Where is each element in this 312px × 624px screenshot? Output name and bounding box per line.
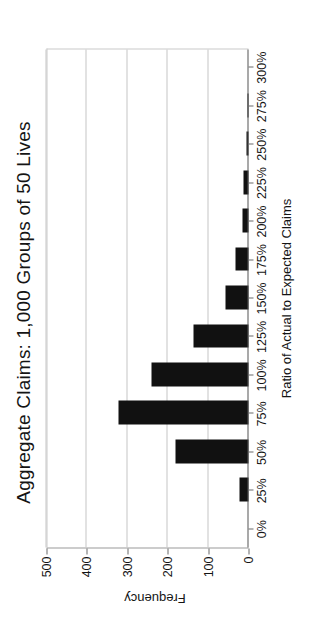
bar: [193, 324, 248, 348]
bar-slot: [47, 208, 249, 232]
x-axis-tick: [249, 143, 254, 144]
x-axis-tick-label: 250%: [255, 128, 269, 160]
rotated-figure-wrapper: Aggregate Claims: 1,000 Groups of 50 Liv…: [5, 0, 312, 624]
bar-chart-figure: Aggregate Claims: 1,000 Groups of 50 Liv…: [5, 0, 312, 624]
y-axis-tick-label: 0: [242, 556, 256, 624]
bar: [152, 362, 249, 386]
x-axis-tick: [249, 105, 254, 106]
y-axis-tick-label: 300: [120, 556, 134, 624]
y-axis-tick-label: 400: [80, 556, 94, 624]
y-axis-tick: [47, 548, 48, 554]
x-axis-tick: [249, 451, 254, 452]
bar-slot: [47, 362, 249, 386]
x-axis-tick: [249, 66, 254, 67]
x-axis-tick-label: 25%: [255, 478, 269, 503]
bar-slot: [47, 439, 249, 463]
x-axis-tick-label: 125%: [255, 320, 269, 352]
y-axis-tick: [168, 548, 169, 554]
x-axis-tick: [249, 182, 254, 183]
x-axis-tick-label: 200%: [255, 205, 269, 237]
x-axis-tick: [249, 528, 254, 529]
bar-slot: [47, 247, 249, 271]
x-axis-tick: [249, 335, 254, 336]
x-axis-tick: [249, 220, 254, 221]
y-axis-title: Frequency: [55, 591, 255, 606]
bar-slot: [47, 93, 249, 117]
bar-slot: [47, 516, 249, 540]
y-axis-tick: [249, 548, 250, 554]
y-axis-tick-label: 500: [40, 556, 54, 624]
plot-area: [47, 48, 249, 548]
x-axis-tick-label: 75%: [255, 401, 269, 426]
x-axis-tick-label: 50%: [255, 439, 269, 464]
x-axis-tick-label: 175%: [255, 244, 269, 276]
x-axis-tick: [249, 297, 254, 298]
x-axis-tick-label: 275%: [255, 90, 269, 122]
bar: [118, 400, 248, 424]
y-axis-tick: [87, 548, 88, 554]
y-axis-tick-label: 100: [201, 556, 215, 624]
bar-slot: [47, 324, 249, 348]
bar-slot: [47, 54, 249, 78]
y-axis-tick-label: 200: [161, 556, 175, 624]
x-axis-tick: [249, 489, 254, 490]
x-axis-tick: [249, 259, 254, 260]
chart-title: Aggregate Claims: 1,000 Groups of 50 Liv…: [13, 0, 35, 624]
x-axis-tick-label: 300%: [255, 51, 269, 83]
bar: [225, 285, 248, 309]
x-axis-tick: [249, 374, 254, 375]
x-axis-title: Ratio of Actual to Expected Claims: [279, 48, 294, 548]
x-axis-tick-label: 100%: [255, 359, 269, 391]
x-axis-tick-label: 150%: [255, 282, 269, 314]
bar-slot: [47, 400, 249, 424]
bar-slot: [47, 170, 249, 194]
bar-slot: [47, 477, 249, 501]
bars-layer: [48, 49, 249, 547]
y-axis-tick: [208, 548, 209, 554]
bar: [175, 439, 248, 463]
x-axis-tick: [249, 412, 254, 413]
bar-slot: [47, 285, 249, 309]
y-axis-tick: [127, 548, 128, 554]
x-axis-tick-label: 0%: [255, 520, 269, 538]
bar-slot: [47, 131, 249, 155]
x-axis-tick-label: 225%: [255, 167, 269, 199]
